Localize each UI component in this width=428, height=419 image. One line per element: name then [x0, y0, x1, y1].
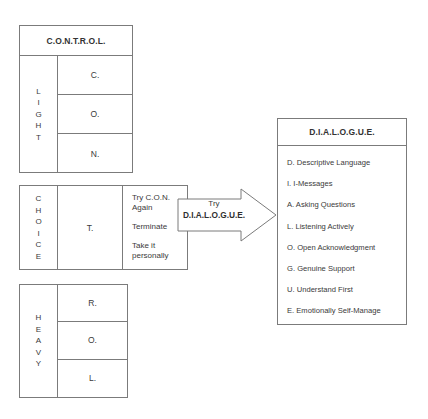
- choice-side-letter: O: [35, 216, 41, 228]
- control-step-cell: O.: [58, 95, 132, 134]
- heavy-side-letter: A: [36, 335, 41, 347]
- control-step-list: C. O. N.: [58, 56, 132, 172]
- dialogue-item: A. Asking Questions: [287, 200, 400, 209]
- heavy-step-cell: O.: [58, 322, 127, 359]
- heavy-box: H E A V Y R. O. L.: [19, 284, 128, 398]
- dialogue-box: D.I.A.L.O.G.U.E. D. Descriptive Language…: [277, 118, 407, 325]
- control-side-label: L I G H T: [20, 56, 58, 173]
- heavy-side-letter: V: [36, 347, 41, 359]
- choice-box: C H O I C E T. Try C.O.N. Again Terminat…: [19, 185, 188, 270]
- heavy-step-cell: R.: [58, 285, 127, 322]
- heavy-side-letter: H: [36, 312, 42, 324]
- dialogue-item: E. Emotionally Self-Manage: [287, 306, 400, 315]
- dialogue-item: I. I-Messages: [287, 179, 400, 188]
- heavy-side-label: H E A V Y: [20, 285, 58, 397]
- control-side-letter: H: [36, 120, 42, 132]
- control-box: C.O.N.T.R.O.L. L I G H T C. O. N.: [19, 25, 133, 173]
- heavy-side-letter: E: [36, 324, 41, 336]
- dialogue-item: L. Listening Actively: [287, 222, 400, 231]
- control-title: C.O.N.T.R.O.L.: [20, 26, 132, 56]
- choice-side-label: C H O I C E: [20, 186, 58, 269]
- control-side-letter: L: [36, 86, 40, 98]
- choice-side-letter: H: [36, 205, 42, 217]
- dialogue-title: D.I.A.L.O.G.U.E.: [278, 119, 406, 146]
- diagram-canvas: C.O.N.T.R.O.L. L I G H T C. O. N. C H O …: [0, 0, 428, 419]
- dialogue-item: D. Descriptive Language: [287, 158, 400, 167]
- control-step-cell: C.: [58, 56, 132, 95]
- heavy-side-letter: Y: [36, 358, 41, 370]
- heavy-step-list: R. O. L.: [58, 285, 127, 397]
- dialogue-item: O. Open Acknowledgment: [287, 243, 400, 252]
- choice-option: Take it personally: [132, 241, 187, 261]
- try-dialogue-arrow: [177, 188, 277, 242]
- control-side-letter: G: [35, 109, 41, 121]
- choice-side-letter: C: [36, 239, 42, 251]
- control-side-letter: I: [37, 97, 39, 109]
- dialogue-item: U. Understand First: [287, 285, 400, 294]
- choice-side-letter: C: [36, 193, 42, 205]
- heavy-step-cell: L.: [58, 360, 127, 397]
- dialogue-item: G. Genuine Support: [287, 264, 400, 273]
- control-side-letter: T: [36, 132, 41, 144]
- choice-side-letter: I: [37, 228, 39, 240]
- dialogue-item-list: D. Descriptive Language I. I-Messages A.…: [278, 146, 406, 324]
- choice-step-cell: T.: [58, 186, 123, 269]
- choice-side-letter: E: [36, 251, 41, 263]
- control-step-cell: N.: [58, 134, 132, 173]
